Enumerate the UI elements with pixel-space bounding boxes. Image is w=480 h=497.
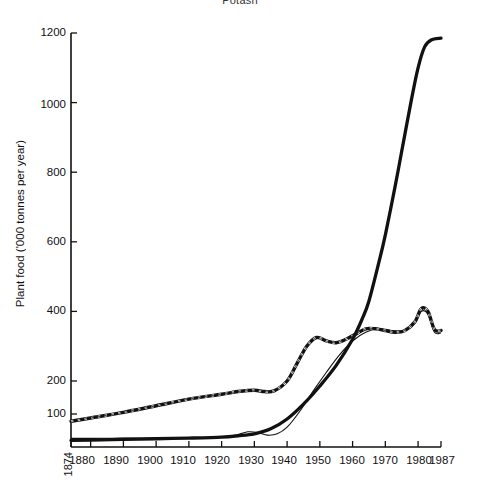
x-tick-marks [71, 441, 441, 447]
series-layer [71, 38, 441, 440]
series-dashed-line-ticks [71, 308, 441, 421]
series-dashed-line-base [71, 308, 441, 421]
series-thick-line [71, 38, 441, 440]
y-tick-marks [71, 33, 77, 414]
series-dashed-line-outline [71, 308, 441, 421]
chart-container: Potash Plant food ('000 tonnes per year)… [0, 0, 480, 497]
plot-area [0, 0, 480, 497]
